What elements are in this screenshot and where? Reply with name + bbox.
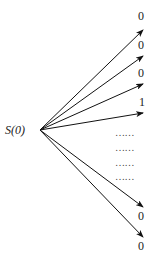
ellipsis-3: ……	[115, 158, 134, 168]
outcome-label-4: 1	[139, 96, 145, 108]
outcome-label-5: 0	[138, 210, 144, 222]
outcome-label-1: 0	[138, 10, 144, 22]
arrow-branch-1	[40, 30, 143, 130]
outcome-label-3: 0	[138, 67, 144, 79]
root-node-label: S(0)	[5, 124, 25, 136]
ellipsis-2: ……	[115, 143, 134, 153]
arrow-branch-3	[40, 84, 143, 130]
outcome-label-6: 0	[138, 240, 144, 252]
ellipsis-4: ……	[115, 172, 134, 182]
ellipsis-1: ……	[115, 128, 134, 138]
arrow-branch-2	[40, 56, 143, 130]
outcome-label-2: 0	[138, 39, 144, 51]
